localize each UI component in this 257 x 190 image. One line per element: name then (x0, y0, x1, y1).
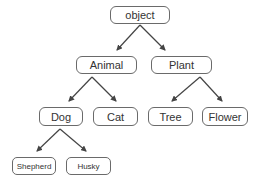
node-plant: Plant (151, 56, 212, 74)
edge-arrow-object-to-animal (117, 25, 140, 50)
node-label: Flower (208, 111, 241, 123)
node-flower: Flower (202, 107, 248, 126)
node-label: object (125, 9, 154, 21)
node-label: Tree (159, 111, 181, 123)
node-label: Cat (107, 111, 124, 123)
node-object: object (110, 6, 170, 24)
node-label: Animal (90, 59, 124, 71)
edge-arrow-dog-to-husky (60, 129, 86, 151)
edge-arrow-animal-to-dog (69, 77, 92, 101)
edge-arrow-plant-to-tree (172, 77, 200, 101)
node-dog: Dog (39, 107, 83, 126)
node-label: Plant (169, 59, 194, 71)
edge-arrow-object-to-plant (140, 25, 165, 50)
node-label: Shepherd (17, 162, 52, 171)
node-animal: Animal (76, 56, 137, 74)
edge-arrow-plant-to-flower (200, 77, 222, 101)
node-label: Husky (77, 162, 99, 171)
node-shepherd: Shepherd (12, 157, 56, 175)
edge-arrow-animal-to-cat (92, 77, 116, 101)
node-cat: Cat (93, 107, 138, 126)
node-husky: Husky (66, 157, 111, 175)
edge-arrow-dog-to-shepherd (37, 129, 60, 151)
node-label: Dog (51, 111, 71, 123)
node-tree: Tree (148, 107, 193, 126)
